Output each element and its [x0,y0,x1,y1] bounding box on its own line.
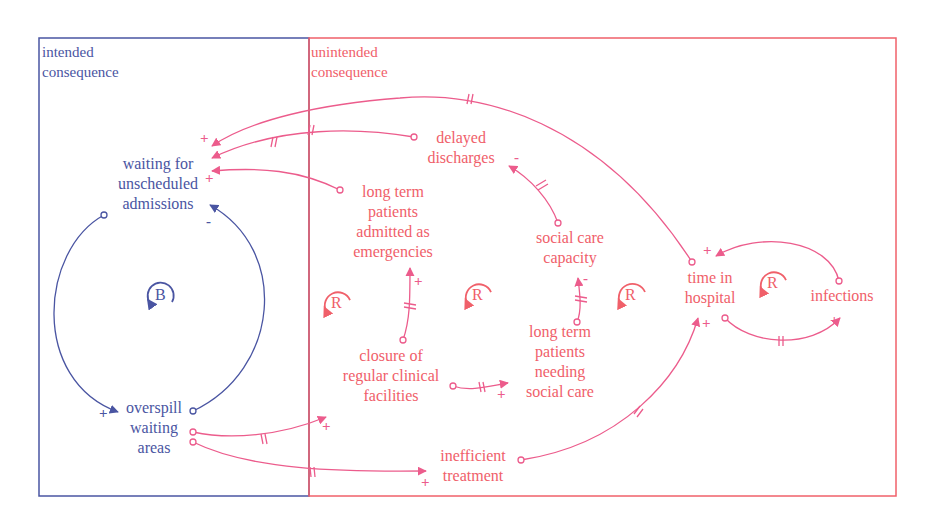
variable-label-line: long term [338,182,448,202]
polarity-plus: + [414,273,423,289]
variable-label-line: waiting for [108,154,208,174]
variable-label-line: time in [672,268,748,288]
variable-label-line: hospital [672,288,748,308]
variable-overspill-waiting-areas: overspill waiting areas [118,398,190,458]
variable-social-care-capacity: social care capacity [520,228,620,268]
variable-label-line: emergencies [338,242,448,262]
variable-label-line: needing [510,362,610,382]
balancing-loop-links [54,205,265,414]
intended-region-title: intended consequence [42,42,119,82]
variable-label-line: patients [338,202,448,222]
polarity-plus: + [497,386,506,402]
variable-label-line: delayed [414,128,508,148]
variable-label-line: social care [520,228,620,248]
variable-label-line: closure of [326,346,456,366]
polarity-minus: - [583,270,588,286]
variable-label-line: overspill [118,398,190,418]
variable-infections: infections [800,286,884,306]
polarity-signs: + + - + - + - + + + + + + [99,130,839,490]
region-title-line: consequence [42,62,119,82]
variable-inefficient-treatment: inefficient treatment [426,446,520,486]
region-title-line: consequence [311,62,388,82]
polarity-plus: + [322,418,331,434]
variable-label-line: inefficient [426,446,520,466]
variable-label-line: infections [800,286,884,306]
polarity-minus: - [514,149,519,165]
variable-closure-of-regular-clinical-facilities: closure of regular clinical facilities [326,346,456,406]
variable-label-line: facilities [326,386,456,406]
reinforcing-loop-label: R [625,287,636,303]
variable-label-line: capacity [520,248,620,268]
reinforcing-loop-label: R [472,287,483,303]
variable-label-line: treatment [426,466,520,486]
polarity-plus: + [703,242,712,258]
variable-label-line: regular clinical [326,366,456,386]
variable-label-line: social care [510,382,610,402]
balancing-loop-label: B [155,287,166,303]
region-title-line: intended [42,42,119,62]
variable-label-line: admitted as [338,222,448,242]
unintended-region-title: unintended consequence [311,42,388,82]
polarity-plus: + [200,130,209,146]
polarity-plus: + [830,312,839,328]
variable-label-line: admissions [108,194,208,214]
variable-long-term-patients-admitted-as-emergencies: long term patients admitted as emergenci… [338,182,448,262]
polarity-plus: + [702,315,711,331]
variable-waiting-for-unscheduled-admissions: waiting for unscheduled admissions [108,154,208,214]
reinforcing-loop-label: R [331,295,342,311]
variable-label-line: unscheduled [108,174,208,194]
polarity-minus: - [206,213,211,229]
variable-label-line: discharges [414,148,508,168]
region-title-line: unintended [311,42,388,62]
variable-delayed-discharges: delayed discharges [414,128,508,168]
variable-time-in-hospital: time in hospital [672,268,748,308]
variable-long-term-patients-needing-social-care: long term patients needing social care [510,322,610,402]
reinforcing-loop-label: R [767,275,778,291]
variable-label-line: areas [118,438,190,458]
variable-label-line: waiting [118,418,190,438]
variable-label-line: long term [510,322,610,342]
polarity-plus: + [99,405,108,421]
variable-label-line: patients [510,342,610,362]
